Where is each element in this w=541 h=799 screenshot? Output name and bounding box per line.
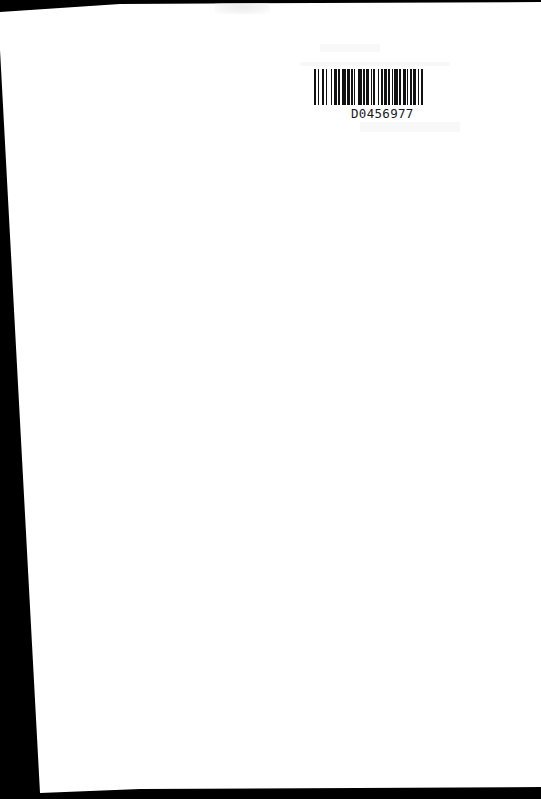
- scan-shadow: [215, 0, 270, 14]
- bleed-through-text: [300, 62, 450, 66]
- bleed-through-text: [320, 44, 380, 52]
- barcode-space: [423, 69, 424, 105]
- paper-page: D0456977: [0, 0, 541, 799]
- barcode-label: D0456977: [351, 106, 414, 121]
- barcode: [314, 69, 454, 105]
- bleed-through-text: [360, 122, 460, 132]
- scanned-document: D0456977: [0, 0, 541, 799]
